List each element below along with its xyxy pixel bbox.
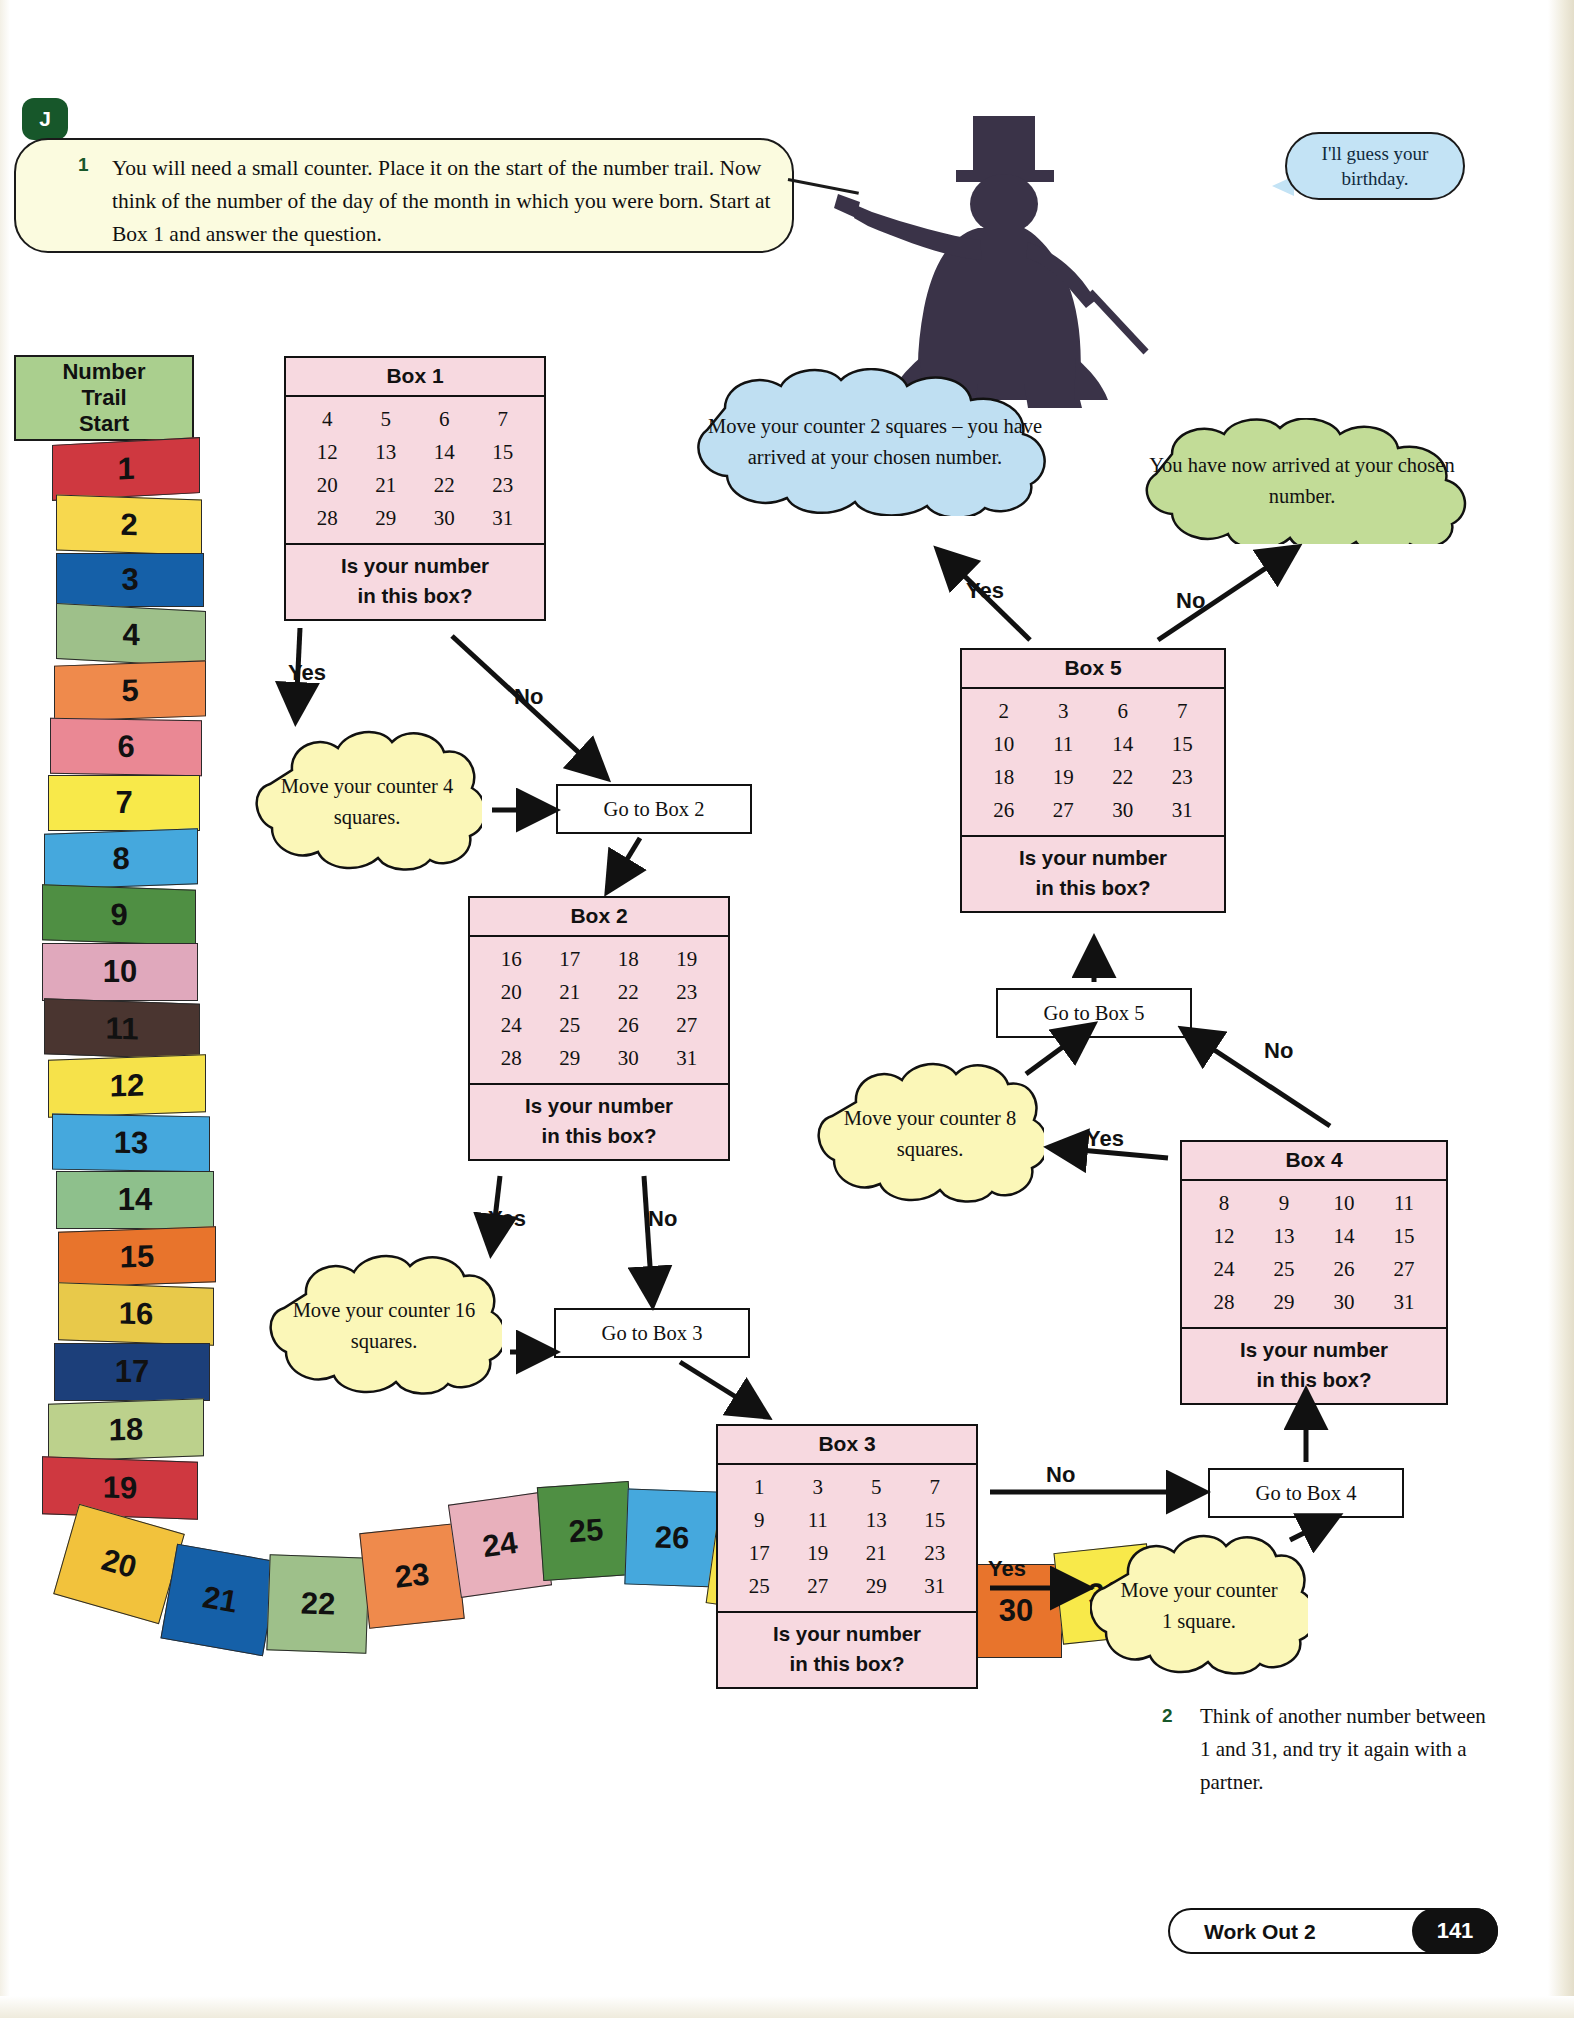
goto-box-3[interactable]: Go to Box 3 [554,1308,750,1358]
trail-segment-24[interactable]: 24 [448,1492,552,1598]
trail-segment-12[interactable]: 12 [48,1054,206,1118]
box-1-question-line2: in this box? [286,581,544,611]
trail-segment-8[interactable]: 8 [44,828,198,889]
trail-segment-7[interactable]: 7 [48,775,200,831]
box-5: Box 5 2367101114151819222326273031 Is yo… [960,648,1226,913]
trail-segment-1[interactable]: 1 [52,437,200,501]
trail-segment-2[interactable]: 2 [56,494,202,555]
box-1: Box 1 4567121314152021222328293031 Is yo… [284,356,546,621]
box-number-cell: 11 [1034,728,1094,761]
goto-box-5[interactable]: Go to Box 5 [996,988,1192,1038]
cloud-arrived-green-text: You have now arrived at your chosen numb… [1112,450,1492,512]
box-number-cell: 9 [730,1504,789,1537]
trail-segment-21[interactable]: 21 [160,1544,279,1657]
box-number-row: 25272931 [730,1570,964,1603]
box-number-cell: 27 [1374,1253,1434,1286]
label-box4-yes: Yes [1086,1126,1124,1152]
box-number-cell: 4 [298,403,357,436]
trail-segment-16[interactable]: 16 [58,1282,214,1345]
cloud-move-4-squares: Move your counter 4 squares. [252,728,482,876]
box-3-question: Is your number in this box? [718,1613,976,1687]
box-5-title: Box 5 [962,650,1224,689]
box-number-cell: 12 [298,436,357,469]
box-number-cell: 6 [1093,695,1153,728]
box-number-cell: 15 [474,436,533,469]
goto-box-4[interactable]: Go to Box 4 [1208,1468,1404,1518]
box-2-question-line1: Is your number [470,1091,728,1121]
box-number-row: 26273031 [974,794,1212,827]
box-2-question: Is your number in this box? [470,1085,728,1159]
instruction-number: 1 [78,154,89,176]
trail-segment-15[interactable]: 15 [58,1226,216,1288]
box-number-cell: 29 [847,1570,906,1603]
box-number-row: 16171819 [482,943,716,976]
box-number-cell: 30 [415,502,474,535]
goto-box-2[interactable]: Go to Box 2 [556,784,752,834]
box-number-cell: 22 [415,469,474,502]
box-number-cell: 23 [658,976,717,1009]
box-number-row: 12131415 [298,436,532,469]
box-number-cell: 7 [1153,695,1213,728]
box-number-cell: 24 [1194,1253,1254,1286]
cloud-move-16-squares: Move your counter 16 squares. [266,1252,502,1400]
box-number-cell: 27 [1034,794,1094,827]
box-number-cell: 30 [599,1042,658,1075]
box-number-row: 4567 [298,403,532,436]
box-number-cell: 23 [474,469,533,502]
box-number-cell: 15 [1153,728,1213,761]
page-number: 141 [1412,1908,1498,1954]
label-box5-no: No [1176,588,1205,614]
trail-segment-17[interactable]: 17 [54,1343,210,1401]
box-number-row: 2367 [974,695,1212,728]
page-edge-right [1548,0,1574,2018]
trail-segment-3[interactable]: 3 [56,553,204,607]
trail-segment-14[interactable]: 14 [56,1171,214,1229]
box-number-cell: 10 [1314,1187,1374,1220]
trail-segment-22[interactable]: 22 [266,1554,369,1653]
trail-segment-23[interactable]: 23 [359,1523,465,1629]
cloud-move-1-text: Move your counter 1 square. [1090,1575,1308,1637]
trail-segment-25[interactable]: 25 [537,1481,635,1581]
box-number-row: 17192123 [730,1537,964,1570]
box-number-cell: 28 [482,1042,541,1075]
box-number-cell: 7 [906,1471,965,1504]
box-number-cell: 8 [1194,1187,1254,1220]
box-number-cell: 20 [298,469,357,502]
question-2-text: Think of another number between 1 and 31… [1200,1700,1500,1799]
trail-segment-26[interactable]: 26 [624,1488,719,1587]
trail-segment-6[interactable]: 6 [50,718,202,777]
box-3-question-line1: Is your number [718,1619,976,1649]
box-number-cell: 5 [357,403,416,436]
box-number-cell: 26 [974,794,1034,827]
box-2-grid: 16171819202122232425262728293031 [470,937,728,1085]
box-number-row: 28293031 [1194,1286,1434,1319]
box-number-cell: 13 [1254,1220,1314,1253]
box-number-cell: 5 [847,1471,906,1504]
box-number-cell: 28 [1194,1286,1254,1319]
box-number-cell: 28 [298,502,357,535]
trail-segment-10[interactable]: 10 [42,943,198,1001]
trail-segment-9[interactable]: 9 [42,884,196,945]
trail-segment-13[interactable]: 13 [52,1114,210,1173]
box-number-cell: 23 [906,1537,965,1570]
page-edge-bottom [0,1996,1574,2018]
trail-segment-5[interactable]: 5 [54,660,206,721]
box-3-title: Box 3 [718,1426,976,1465]
cloud-move-8-text: Move your counter 8 squares. [816,1103,1044,1165]
label-box3-yes: Yes [988,1556,1026,1582]
trail-segment-18[interactable]: 18 [48,1398,204,1461]
trail-segment-4[interactable]: 4 [56,603,206,667]
box-number-row: 10111415 [974,728,1212,761]
box-number-cell: 31 [1153,794,1213,827]
box-number-cell: 15 [1374,1220,1434,1253]
box-5-grid: 2367101114151819222326273031 [962,689,1224,837]
box-1-grid: 4567121314152021222328293031 [286,397,544,545]
box-number-row: 18192223 [974,761,1212,794]
box-number-cell: 19 [789,1537,848,1570]
box-number-row: 28293031 [298,502,532,535]
trail-segment-11[interactable]: 11 [44,998,200,1059]
box-number-cell: 11 [789,1504,848,1537]
trail-segment-19[interactable]: 19 [42,1456,198,1519]
magician-speech-bubble: I'll guess your birthday. [1285,132,1465,200]
box-number-row: 891011 [1194,1187,1434,1220]
